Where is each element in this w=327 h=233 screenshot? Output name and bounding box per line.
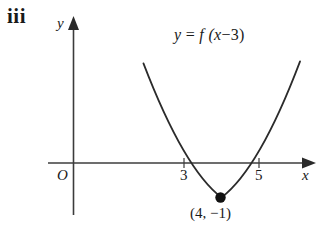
origin-label: O: [57, 168, 68, 183]
graph-figure: [0, 0, 327, 233]
x-tick-label-5: 5: [255, 168, 263, 183]
x-axis-label: x: [302, 168, 309, 183]
y-axis-arrowhead: [68, 16, 79, 30]
equation-argument: (x: [208, 26, 221, 43]
y-axis-label: y: [57, 16, 64, 31]
curve-equation-label: y = f (x−3): [174, 27, 245, 43]
x-tick-label-3: 3: [180, 168, 188, 183]
vertex-coordinate-label: (4, −1): [190, 206, 231, 221]
vertex-point-marker: [215, 192, 225, 202]
equation-constant: 3): [231, 26, 245, 43]
parabola-curve: [144, 62, 301, 198]
equation-minus: −: [221, 26, 230, 43]
equation-equals-sign: =: [186, 26, 195, 43]
part-label: iii: [7, 6, 26, 27]
